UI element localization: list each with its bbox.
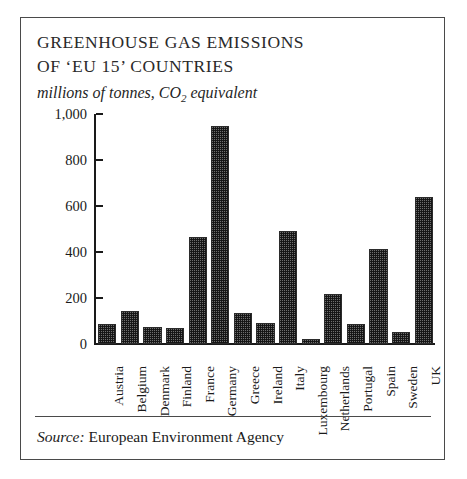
x-axis-category-label: Denmark <box>158 366 172 416</box>
x-axis-category-label: Italy <box>293 366 307 391</box>
x-axis-category-label: Greece <box>248 366 262 404</box>
y-axis-tick-label: 600 <box>65 198 87 215</box>
bar <box>143 327 161 344</box>
bar-column <box>189 114 207 344</box>
bar-column <box>279 114 297 344</box>
bar <box>189 237 207 344</box>
bar-column <box>98 114 116 344</box>
bar <box>166 328 184 344</box>
bar-column <box>347 114 365 344</box>
chart-subtitle: millions of tonnes, CO2 equivalent <box>37 81 429 110</box>
x-axis-category-label: Luxembourg <box>316 366 330 436</box>
y-axis-tick-label: 800 <box>65 152 87 169</box>
bar-column <box>415 114 433 344</box>
bar-column <box>166 114 184 344</box>
bar <box>392 332 410 344</box>
y-axis-tick-label: 0 <box>80 336 87 353</box>
x-axis-category-label: Belgium <box>135 366 149 413</box>
x-axis-category-label: Netherlands <box>338 366 352 431</box>
bar-column <box>369 114 387 344</box>
bar <box>98 324 116 344</box>
bar-column <box>256 114 274 344</box>
x-axis-category-label: Germany <box>225 366 239 416</box>
bar-column <box>121 114 139 344</box>
x-axis-category-label: Portugal <box>361 366 375 412</box>
bar-column <box>143 114 161 344</box>
bar <box>369 249 387 344</box>
y-axis-tick-label: 200 <box>65 290 87 307</box>
chart-plot-area: 02004006008001,000 <box>94 114 435 362</box>
bar-column <box>234 114 252 344</box>
page-title-line-2: OF ‘EU 15’ COUNTRIES <box>37 54 429 78</box>
x-axis-category-label: Austria <box>112 366 126 406</box>
bar <box>279 231 297 344</box>
bar <box>234 313 252 344</box>
bar <box>347 324 365 344</box>
x-axis-category-label: Finland <box>180 366 194 407</box>
source-text: European Environment Agency <box>85 428 284 445</box>
source-divider <box>35 416 431 417</box>
title-block: GREENHOUSE GAS EMISSIONS OF ‘EU 15’ COUN… <box>37 30 429 110</box>
x-axis-category-label: Spain <box>384 366 398 397</box>
bar-column <box>211 114 229 344</box>
x-axis-category-label: UK <box>429 366 443 386</box>
bar <box>121 311 139 344</box>
x-axis-category-label: Ireland <box>271 366 285 404</box>
bar <box>256 323 274 344</box>
bar-series <box>96 114 435 344</box>
bar <box>324 294 342 344</box>
figure-frame: GREENHOUSE GAS EMISSIONS OF ‘EU 15’ COUN… <box>20 17 445 460</box>
bar <box>415 197 433 344</box>
source-note: Source: European Environment Agency <box>37 428 284 446</box>
x-axis-category-label: Sweden <box>406 366 420 409</box>
subtitle-suffix: equivalent <box>187 84 258 101</box>
bar-column <box>324 114 342 344</box>
source-label: Source: <box>37 428 85 445</box>
subtitle-prefix: millions of tonnes, CO <box>37 84 181 101</box>
bar <box>302 339 320 344</box>
y-axis-tick-label: 1,000 <box>54 106 87 123</box>
bar <box>211 126 229 344</box>
bar-column <box>302 114 320 344</box>
y-axis-tick-label: 400 <box>65 244 87 261</box>
x-axis-category-label: France <box>203 366 217 403</box>
page-title-line-1: GREENHOUSE GAS EMISSIONS <box>37 30 429 54</box>
bar-column <box>392 114 410 344</box>
